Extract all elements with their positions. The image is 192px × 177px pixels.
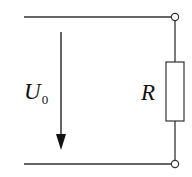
voltage-label: U0 [24,79,48,107]
resistor [166,62,184,121]
circuit-diagram: U0 R [0,0,192,177]
arrow-down-icon [56,134,66,150]
voltage-symbol: U [24,79,42,104]
top-terminal [171,13,178,20]
resistor-label: R [140,80,155,105]
voltage-subscript: 0 [42,92,49,107]
bottom-terminal [171,160,178,167]
